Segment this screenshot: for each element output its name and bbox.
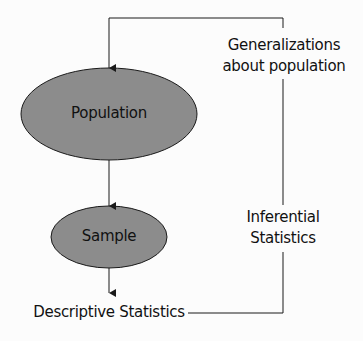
generalizations-label-line1: Generalizations: [214, 35, 354, 56]
inferential-label-line2: Statistics: [233, 228, 333, 249]
descriptive-statistics-label: Descriptive Statistics: [26, 302, 192, 323]
loop-bottom-segment: [188, 252, 283, 313]
sample-label: Sample: [49, 226, 169, 247]
generalizations-label-line2: about population: [214, 56, 354, 77]
population-label: Population: [39, 103, 179, 124]
inferential-label-line1: Inferential: [233, 207, 333, 228]
